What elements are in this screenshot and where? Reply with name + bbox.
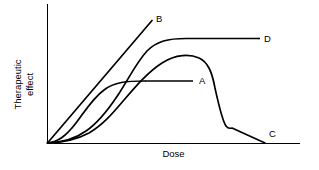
curve-label-a: A	[199, 75, 206, 86]
curve-a	[48, 81, 146, 143]
curve-label-d: D	[264, 33, 271, 44]
y-axis-title: Therapeutic effect	[6, 30, 40, 138]
y-axis-title-line-1: Therapeutic	[12, 59, 24, 109]
curve-c	[48, 55, 266, 143]
x-axis-title: Dose	[47, 148, 300, 159]
chart-canvas: B D A C	[0, 0, 319, 170]
y-axis-title-line-2: effect	[23, 59, 35, 109]
therapeutic-effect-dose-chart: B D A C Therapeutic effect Dose	[0, 0, 319, 170]
curve-label-b: B	[156, 13, 162, 24]
curve-label-c: C	[269, 128, 276, 139]
